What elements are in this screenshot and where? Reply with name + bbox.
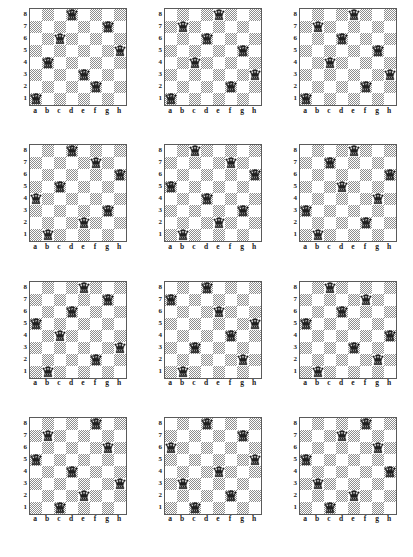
square-d1 — [201, 93, 213, 105]
square-a2 — [300, 354, 312, 366]
square-b4 — [312, 466, 324, 478]
square-f5 — [90, 45, 102, 57]
square-d1 — [66, 93, 78, 105]
square-d8 — [201, 282, 213, 294]
chessboard-7: 87654321abcdefgh — [18, 281, 125, 389]
rank-label-2: 2 — [294, 80, 298, 92]
rank-label-7: 7 — [294, 293, 298, 305]
square-c8 — [189, 145, 201, 157]
square-e2 — [78, 81, 90, 93]
square-d7 — [66, 21, 78, 33]
square-g1 — [237, 229, 249, 241]
queen-icon — [336, 181, 348, 193]
square-b3 — [42, 478, 54, 490]
square-c3 — [324, 205, 336, 217]
file-label-d: d — [65, 241, 77, 252]
square-d3 — [336, 478, 348, 490]
square-a8 — [300, 282, 312, 294]
queen-icon — [114, 169, 126, 181]
rank-label-7: 7 — [294, 20, 298, 32]
square-f4 — [90, 193, 102, 205]
square-d7 — [201, 294, 213, 306]
square-g5 — [237, 318, 249, 330]
square-f2 — [360, 81, 372, 93]
square-a7 — [165, 430, 177, 442]
square-e8 — [348, 145, 360, 157]
square-a6 — [30, 306, 42, 318]
square-f4 — [90, 466, 102, 478]
square-d6 — [66, 33, 78, 45]
rank-label-2: 2 — [24, 80, 28, 92]
queen-icon — [201, 33, 213, 45]
rank-label-3: 3 — [294, 341, 298, 353]
queen-icon — [177, 366, 189, 378]
rank-label-6: 6 — [24, 32, 28, 44]
rank-label-4: 4 — [294, 329, 298, 341]
file-labels: abcdefgh — [164, 240, 260, 252]
queen-icon — [90, 157, 102, 169]
square-a7 — [30, 294, 42, 306]
queen-icon — [213, 9, 225, 21]
square-c8 — [189, 418, 201, 430]
square-c8 — [324, 418, 336, 430]
square-b6 — [312, 306, 324, 318]
board-squares — [164, 281, 262, 379]
rank-label-8: 8 — [294, 8, 298, 20]
square-a1 — [300, 366, 312, 378]
board-panel-11: 87654321abcdefgh — [139, 417, 274, 553]
square-g7 — [372, 430, 384, 442]
square-a5 — [165, 181, 177, 193]
square-e6 — [348, 33, 360, 45]
square-c2 — [189, 217, 201, 229]
file-label-e: e — [212, 513, 224, 524]
square-h5 — [114, 318, 126, 330]
square-g6 — [102, 306, 114, 318]
square-e7 — [213, 157, 225, 169]
square-g4 — [372, 466, 384, 478]
square-g5 — [372, 181, 384, 193]
square-b7 — [177, 430, 189, 442]
file-label-a: a — [29, 377, 41, 388]
square-a7 — [165, 294, 177, 306]
square-b2 — [42, 354, 54, 366]
chessboard-12: 87654321abcdefgh — [288, 417, 395, 525]
square-g1 — [102, 502, 114, 514]
square-d3 — [336, 69, 348, 81]
square-h2 — [384, 354, 396, 366]
square-c8 — [189, 9, 201, 21]
square-g2 — [237, 81, 249, 93]
rank-label-5: 5 — [294, 453, 298, 465]
square-g5 — [237, 181, 249, 193]
square-f5 — [360, 454, 372, 466]
file-labels: abcdefgh — [29, 104, 125, 116]
square-c8 — [324, 145, 336, 157]
square-d8 — [66, 282, 78, 294]
queen-icon — [66, 145, 78, 157]
file-label-f: f — [89, 377, 101, 388]
queen-icon — [348, 342, 360, 354]
square-b8 — [312, 418, 324, 430]
square-f2 — [90, 354, 102, 366]
square-g8 — [102, 9, 114, 21]
file-label-f: f — [89, 513, 101, 524]
square-a8 — [30, 145, 42, 157]
square-e6 — [78, 169, 90, 181]
square-b8 — [177, 145, 189, 157]
rank-label-4: 4 — [159, 465, 163, 477]
square-a8 — [165, 9, 177, 21]
square-b6 — [42, 33, 54, 45]
square-e7 — [348, 21, 360, 33]
square-h1 — [384, 229, 396, 241]
board-squares — [29, 8, 127, 106]
square-b8 — [312, 145, 324, 157]
square-h3 — [384, 205, 396, 217]
square-f1 — [225, 502, 237, 514]
rank-labels: 87654321 — [18, 417, 28, 513]
board-squares — [164, 417, 262, 515]
queen-icon — [189, 57, 201, 69]
square-d7 — [201, 430, 213, 442]
square-f6 — [225, 169, 237, 181]
rank-label-2: 2 — [294, 216, 298, 228]
square-d5 — [66, 181, 78, 193]
chessboard-6: 87654321abcdefgh — [288, 144, 395, 252]
